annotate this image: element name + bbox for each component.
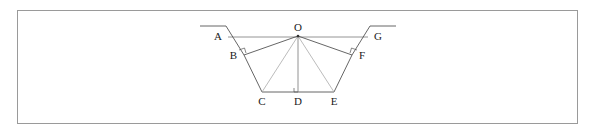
vertex-label-D: D bbox=[294, 95, 302, 107]
edge-O-C bbox=[262, 36, 298, 92]
edge-O-E bbox=[298, 36, 334, 92]
vertex-label-O: O bbox=[294, 21, 302, 33]
vertex-label-A: A bbox=[214, 30, 222, 42]
apex-point-O bbox=[297, 35, 300, 38]
edge-B-C bbox=[244, 55, 262, 92]
edge-O-F bbox=[298, 36, 352, 55]
vertex-label-G: G bbox=[374, 30, 382, 42]
edge-O-B bbox=[244, 36, 298, 55]
vertex-label-E: E bbox=[331, 95, 338, 107]
edge-E-F bbox=[334, 55, 352, 92]
vertex-label-C: C bbox=[258, 95, 265, 107]
trapezoid-cross-section-diagram: A B C D E F G O bbox=[0, 0, 595, 133]
right-angle-mark-D bbox=[294, 88, 298, 92]
figure-page: A B C D E F G O bbox=[0, 0, 595, 133]
vertex-label-B: B bbox=[230, 49, 237, 61]
vertex-label-F: F bbox=[359, 49, 365, 61]
